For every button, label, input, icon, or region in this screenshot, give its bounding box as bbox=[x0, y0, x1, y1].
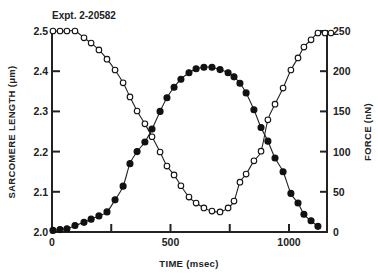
y-right-tick-label: 0 bbox=[333, 226, 339, 238]
y-right-tick-label: 150 bbox=[333, 105, 351, 117]
force-point bbox=[149, 126, 155, 132]
sarcomere-length-point bbox=[81, 35, 87, 41]
force-point bbox=[186, 70, 192, 76]
force-point bbox=[57, 227, 63, 233]
force-point bbox=[127, 161, 133, 167]
y-left-tick-label: 2.3 bbox=[33, 105, 48, 117]
sarcomere-length-point bbox=[258, 148, 264, 154]
force-point bbox=[280, 169, 286, 175]
sarcomere-length-point bbox=[112, 67, 118, 73]
sarcomere-length-point bbox=[120, 80, 126, 86]
force-point bbox=[237, 80, 243, 86]
force-point bbox=[201, 64, 207, 70]
y-right-ticks: 050100150200250 bbox=[320, 25, 351, 238]
sarcomere-length-point bbox=[308, 37, 314, 43]
chart: Expt. 2-20582 05001000 2.02.12.22.32.42.… bbox=[0, 0, 378, 274]
force-point bbox=[64, 226, 70, 232]
force-point bbox=[178, 76, 184, 82]
y-left-tick-label: 2.2 bbox=[33, 146, 48, 158]
force-point bbox=[164, 95, 170, 101]
sarcomere-length-curve bbox=[53, 30, 331, 212]
force-point bbox=[112, 197, 118, 203]
sarcomere-length-point bbox=[225, 205, 231, 211]
force-point bbox=[193, 66, 199, 72]
force-point bbox=[243, 90, 249, 96]
sarcomere-length-point bbox=[295, 55, 301, 61]
x-tick-label: 0 bbox=[49, 236, 55, 248]
force-point bbox=[88, 216, 94, 222]
sarcomere-length-point bbox=[96, 47, 102, 53]
force-point bbox=[217, 67, 223, 73]
sarcomere-length-point bbox=[134, 108, 140, 114]
force-point bbox=[225, 70, 231, 76]
force-point bbox=[81, 219, 87, 225]
x-axis-title: TIME (msec) bbox=[159, 258, 218, 269]
sarcomere-length-point bbox=[157, 149, 163, 155]
sarcomere-length-point bbox=[265, 117, 271, 123]
sarcomere-length-point bbox=[251, 158, 257, 164]
y-left-axis-title: SARCOMERE LENGTH (μm) bbox=[6, 66, 17, 199]
sarcomere-length-point bbox=[127, 94, 133, 100]
force-point bbox=[231, 74, 237, 80]
axes bbox=[51, 30, 328, 233]
sarcomere-length-point bbox=[64, 28, 70, 34]
sarcomere-length-point bbox=[209, 208, 215, 214]
force-point bbox=[272, 155, 278, 161]
sarcomere-length-point bbox=[301, 44, 307, 50]
sarcomere-length-point bbox=[237, 179, 243, 185]
force-point bbox=[209, 64, 215, 70]
force-point bbox=[308, 218, 314, 224]
y-left-tick-label: 2.1 bbox=[33, 186, 48, 198]
force-point bbox=[258, 124, 264, 130]
y-left-tick-label: 2.5 bbox=[33, 25, 48, 37]
sarcomere-length-point bbox=[217, 209, 223, 215]
y-left-ticks: 2.02.12.22.32.42.5 bbox=[33, 25, 60, 238]
sarcomere-length-point bbox=[201, 205, 207, 211]
sarcomere-length-point bbox=[328, 30, 334, 36]
sarcomere-length-point bbox=[104, 56, 110, 62]
sarcomere-length-point bbox=[322, 30, 328, 36]
sarcomere-length-point bbox=[72, 28, 78, 34]
sarcomere-length-point bbox=[164, 163, 170, 169]
force-point bbox=[265, 138, 271, 144]
sarcomere-length-point bbox=[50, 28, 56, 34]
y-left-tick-label: 2.0 bbox=[33, 226, 48, 238]
force-point bbox=[251, 107, 257, 113]
sarcomere-length-point bbox=[288, 67, 294, 73]
fit-curves bbox=[53, 30, 331, 230]
force-point bbox=[72, 223, 78, 229]
sarcomere-length-point bbox=[193, 200, 199, 206]
force-point bbox=[157, 108, 163, 114]
sarcomere-length-point bbox=[315, 30, 321, 36]
sarcomere-length-point bbox=[178, 183, 184, 189]
y-left-tick-label: 2.4 bbox=[33, 65, 48, 77]
sarcomere-length-point bbox=[231, 198, 237, 204]
force-point bbox=[288, 190, 294, 196]
sarcomere-length-point bbox=[272, 101, 278, 107]
force-point bbox=[96, 213, 102, 219]
y-right-axis-title: FORCE (nN) bbox=[362, 103, 373, 161]
x-tick-label: 500 bbox=[162, 236, 180, 248]
y-right-tick-label: 50 bbox=[333, 186, 345, 198]
chart-title: Expt. 2-20582 bbox=[52, 10, 116, 21]
sarcomere-length-point bbox=[186, 194, 192, 200]
sarcomere-length-point bbox=[243, 171, 249, 177]
data-points bbox=[50, 28, 334, 233]
force-point bbox=[295, 200, 301, 206]
force-point bbox=[171, 84, 177, 90]
force-point bbox=[142, 139, 148, 145]
y-right-tick-label: 250 bbox=[333, 25, 351, 37]
x-ticks: 05001000 bbox=[49, 224, 301, 248]
y-right-tick-label: 200 bbox=[333, 65, 351, 77]
sarcomere-length-point bbox=[57, 28, 63, 34]
force-point bbox=[301, 211, 307, 217]
y-right-tick-label: 100 bbox=[333, 146, 351, 158]
sarcomere-length-point bbox=[149, 134, 155, 140]
sarcomere-length-point bbox=[280, 85, 286, 91]
force-point bbox=[315, 223, 321, 229]
force-curve bbox=[53, 67, 318, 230]
sarcomere-length-point bbox=[88, 40, 94, 46]
force-point bbox=[50, 227, 56, 233]
sarcomere-length-point bbox=[171, 172, 177, 178]
force-point bbox=[120, 183, 126, 189]
